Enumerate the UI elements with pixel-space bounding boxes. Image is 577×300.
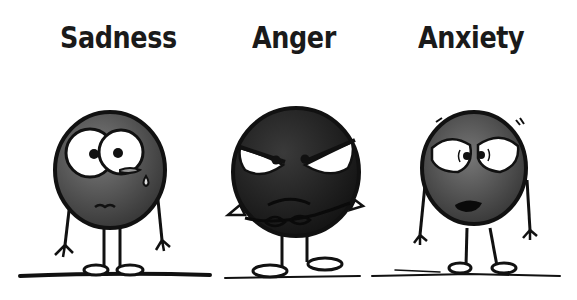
anxiety-character xyxy=(414,112,537,273)
sadness-character xyxy=(55,112,170,275)
emotions-illustration xyxy=(0,0,577,300)
anger-character xyxy=(228,108,363,277)
